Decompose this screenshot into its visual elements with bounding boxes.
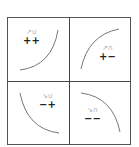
sign-pair: +−: [99, 52, 116, 62]
sign-pair: −−: [84, 114, 101, 124]
curves-layer: [0, 0, 139, 147]
sign-pair: −+: [39, 100, 56, 110]
quadrant-label-bottom-left: ↘∪ −+: [39, 93, 56, 110]
quadrant-label-top-right: ↗∩ +−: [99, 45, 116, 62]
sign-pair: ++: [23, 36, 40, 46]
quadrant-label-top-left: ↗∪ ++: [23, 29, 40, 46]
quadrant-label-bottom-right: ↘∩ −−: [84, 107, 101, 124]
